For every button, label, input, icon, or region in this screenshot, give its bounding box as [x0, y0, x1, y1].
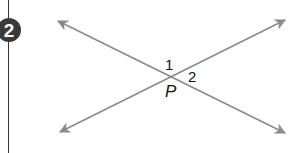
line-ascending — [60, 20, 285, 132]
angle-2-label: 2 — [188, 69, 196, 84]
intersecting-lines-figure — [0, 0, 289, 153]
point-p-label: P — [165, 83, 176, 100]
angle-1-label: 1 — [165, 57, 173, 72]
